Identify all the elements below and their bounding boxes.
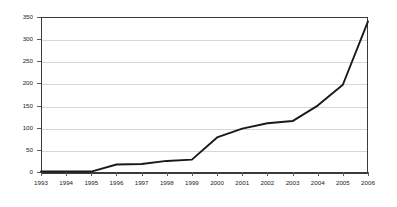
x-tick-label: 2002 <box>260 180 274 186</box>
x-tick-1997 <box>142 172 143 176</box>
series-line <box>41 17 368 172</box>
x-tick-2004 <box>318 172 319 176</box>
x-tick-1998 <box>167 172 168 176</box>
x-tick-label: 2004 <box>311 180 325 186</box>
x-tick-1993 <box>41 172 42 176</box>
y-tick-label: 350 <box>0 14 33 20</box>
x-tick-1999 <box>192 172 193 176</box>
x-tick-2003 <box>293 172 294 176</box>
x-tick-label: 2000 <box>210 180 224 186</box>
x-tick-label: 2006 <box>361 180 375 186</box>
x-tick-2001 <box>242 172 243 176</box>
y-tick-label: 0 <box>0 169 33 175</box>
x-tick-1996 <box>116 172 117 176</box>
x-tick-label: 1997 <box>135 180 149 186</box>
y-tick-label: 250 <box>0 58 33 64</box>
x-tick-2005 <box>343 172 344 176</box>
y-tick-label: 200 <box>0 80 33 86</box>
x-tick-label: 1998 <box>160 180 174 186</box>
series-polyline <box>41 21 368 171</box>
x-tick-2000 <box>217 172 218 176</box>
x-tick-label: 2003 <box>286 180 300 186</box>
x-tick-2002 <box>267 172 268 176</box>
x-tick-label: 1995 <box>84 180 98 186</box>
y-tick-label: 300 <box>0 36 33 42</box>
y-tick-label: 50 <box>0 147 33 153</box>
x-tick-label: 1993 <box>34 180 48 186</box>
x-tick-1995 <box>91 172 92 176</box>
y-tick-label: 100 <box>0 125 33 131</box>
x-tick-label: 2001 <box>235 180 249 186</box>
line-chart: 050100150200250300350 199319941995199619… <box>0 0 397 207</box>
y-tick-label: 150 <box>0 102 33 108</box>
x-tick-label: 1994 <box>59 180 73 186</box>
x-tick-1994 <box>66 172 67 176</box>
x-tick-label: 1996 <box>110 180 124 186</box>
x-tick-label: 1999 <box>185 180 199 186</box>
x-tick-label: 2005 <box>336 180 350 186</box>
x-tick-2006 <box>368 172 369 176</box>
